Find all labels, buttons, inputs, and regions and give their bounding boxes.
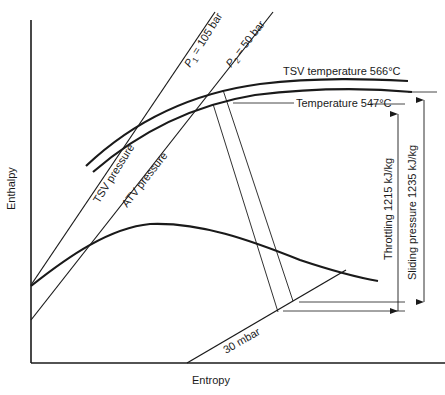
condenser-isobar-line bbox=[187, 270, 346, 363]
expansion-line-throttling bbox=[213, 104, 278, 312]
y-axis-label: Enthalpy bbox=[5, 167, 17, 210]
temperature-label: Temperature 547°C bbox=[296, 97, 392, 109]
mollier-diagram: Enthalpy Entropy P1 = 105 bar P2 = 50 ba… bbox=[0, 0, 445, 395]
condenser-label: 30 mbar bbox=[221, 325, 262, 356]
expansion-line-sliding bbox=[223, 90, 293, 301]
throttling-label: Throttling 1215 kJ/kg bbox=[382, 158, 394, 260]
x-axis-label: Entropy bbox=[192, 374, 230, 386]
p2-label: P2 = 50 bar bbox=[223, 18, 269, 71]
tsv-temperature-curve bbox=[86, 79, 408, 166]
p1-label: P1 = 105 bar bbox=[182, 10, 228, 71]
tsv-temperature-label: TSV temperature 566°C bbox=[283, 65, 401, 77]
sliding-pressure-label: Sliding pressure 1235 kJ/kg bbox=[406, 145, 418, 280]
saturation-curve bbox=[31, 224, 378, 286]
